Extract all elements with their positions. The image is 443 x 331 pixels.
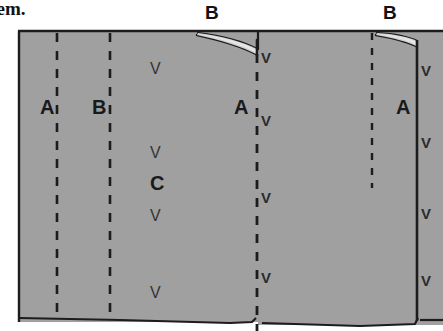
garment-pleat-diagram: [0, 0, 443, 331]
stitch-mark-a2-2: V: [261, 112, 271, 129]
stitch-mark-a2-1: V: [261, 49, 271, 66]
stitch-mark-a3-4: V: [421, 272, 431, 289]
stitch-mark-a3-1: V: [421, 62, 431, 79]
stitch-mark-c-3: V: [150, 207, 161, 225]
panel-label-a-3: A: [396, 96, 410, 119]
fabric-panel-left: [18, 31, 258, 322]
fabric-panel-right: [258, 31, 443, 325]
panel-label-b-1: B: [92, 96, 106, 119]
stitch-mark-a3-3: V: [421, 205, 431, 222]
stitch-mark-a2-4: V: [261, 269, 271, 286]
stitch-mark-c-2: V: [150, 144, 161, 162]
top-label-b-1: B: [205, 2, 219, 24]
figure-page: hem.: [0, 0, 443, 331]
stitch-mark-a2-3: V: [261, 189, 271, 206]
stitch-mark-c-4: V: [150, 284, 161, 302]
panel-label-a-2: A: [234, 96, 248, 119]
panel-label-a-1: A: [40, 96, 54, 119]
stitch-mark-a3-2: V: [421, 134, 431, 151]
top-label-b-2: B: [383, 2, 397, 24]
panel-label-c-1: C: [150, 172, 164, 195]
stitch-mark-c-1: V: [150, 60, 161, 78]
